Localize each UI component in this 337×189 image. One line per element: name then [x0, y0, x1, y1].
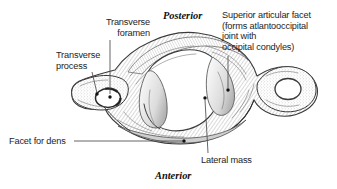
- anatomy-figure: Transverse foramen Transverse process Su…: [0, 0, 337, 189]
- orientation-label-anterior: Anterior: [155, 170, 191, 181]
- dot-transverse-process: [95, 92, 98, 95]
- dot-lateral-mass: [203, 96, 206, 99]
- label-transverse-process: Transverse process: [56, 50, 118, 71]
- label-lateral-mass: Lateral mass: [201, 155, 252, 166]
- dot-facet-for-dens: [182, 139, 185, 142]
- right-transverse-foramen: [275, 79, 301, 100]
- label-transverse-foramen: Transverse foramen: [84, 17, 150, 38]
- dot-superior-facet: [226, 88, 229, 91]
- label-superior-articular-facet: Superior articular facet (forms atlantoo…: [222, 10, 337, 52]
- orientation-label-posterior: Posterior: [163, 10, 202, 21]
- label-facet-for-dens: Facet for dens: [9, 136, 66, 147]
- dot-transverse-foramen: [108, 95, 111, 98]
